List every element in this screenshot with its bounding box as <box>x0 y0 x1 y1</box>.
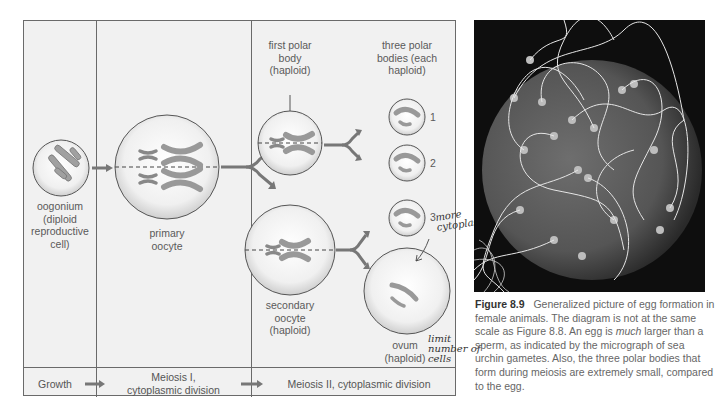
polar-number-1: 1 <box>428 111 438 124</box>
caption-emphasis: much <box>616 325 642 337</box>
first-polar-body-label: first polar body (haploid) <box>252 39 328 77</box>
stage-meiosis-2: Meiosis II, cytoplasmic division <box>264 378 454 391</box>
polar-body-1 <box>389 99 425 135</box>
handwritten-note-cytoplasm: more cytoplas <box>435 207 479 233</box>
stage-meiosis-1: Meiosis I, cytoplasmic division <box>106 371 241 396</box>
stage-growth: Growth <box>24 378 86 391</box>
secondary-oocyte-cell <box>245 205 335 295</box>
polar-body-3 <box>389 200 425 236</box>
ovum-cell <box>364 248 450 334</box>
figure-caption: Figure 8.9 Generalized picture of egg fo… <box>475 298 715 393</box>
three-polar-bodies-label: three polar bodies (each haploid) <box>364 39 450 77</box>
oogonium-label: oogonium (diploid reproductive cell) <box>24 200 96 250</box>
handwritten-note-limit: limit number of cells <box>428 334 480 364</box>
oogonium-cell <box>33 140 89 196</box>
polar-number-2: 2 <box>428 157 438 170</box>
sea-urchin-micrograph <box>474 20 705 292</box>
figure-label: Figure 8.9 <box>475 298 525 310</box>
primary-oocyte-cell <box>115 115 219 219</box>
oogenesis-diagram: oogonium (diploid reproductive cell) pri… <box>23 20 456 396</box>
polar-body-2 <box>389 145 425 181</box>
primary-oocyte-label: primary oocyte <box>134 227 200 252</box>
micrograph-image <box>474 20 705 292</box>
secondary-oocyte-label: secondary oocyte (haploid) <box>250 299 330 337</box>
